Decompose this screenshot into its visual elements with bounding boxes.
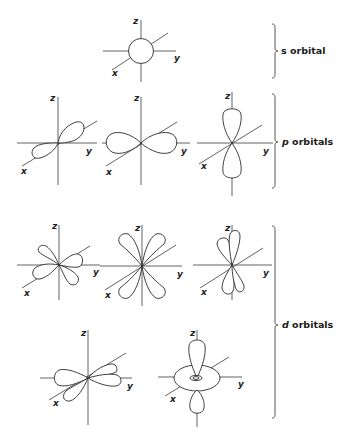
d-label-text: orbitals bbox=[289, 319, 333, 330]
z-axis-label: z bbox=[224, 91, 231, 101]
x-axis-label: x bbox=[23, 288, 31, 298]
p-label-text: orbitals bbox=[289, 136, 333, 147]
z-axis-label: z bbox=[134, 223, 141, 233]
dxz-orbital: z y x bbox=[193, 223, 272, 300]
pz-orbital: z y x bbox=[197, 91, 273, 196]
y-axis-label: y bbox=[181, 146, 188, 156]
x-axis-label: x bbox=[169, 394, 177, 404]
y-axis-label: y bbox=[93, 267, 100, 277]
y-axis-label: y bbox=[238, 379, 245, 389]
y-axis-label: y bbox=[86, 146, 93, 156]
d-group-brace bbox=[272, 226, 278, 418]
y-axis-label: y bbox=[127, 381, 134, 391]
x-axis-label: x bbox=[104, 290, 112, 300]
z-axis-label: z bbox=[80, 328, 87, 338]
d-orbitals-label: d orbitals bbox=[282, 319, 333, 330]
s-group-brace bbox=[272, 24, 278, 78]
y-axis-label: y bbox=[177, 269, 184, 279]
z-axis-label: z bbox=[189, 328, 196, 338]
z-axis-label: z bbox=[49, 93, 56, 103]
x-axis-label: x bbox=[52, 398, 60, 408]
x-axis-label: x bbox=[111, 68, 119, 78]
dx2y2-orbital: z y x bbox=[40, 328, 134, 425]
dz2-orbital: z y x bbox=[158, 328, 245, 427]
px-orbital: z y x bbox=[17, 93, 97, 185]
s-orbital: z y x bbox=[103, 16, 181, 82]
z-axis-label: z bbox=[51, 221, 58, 231]
x-axis-label: x bbox=[105, 167, 113, 177]
s-orbital-label: s orbital bbox=[281, 45, 325, 56]
dyz-orbital: z y x bbox=[100, 223, 184, 306]
y-axis-label: y bbox=[263, 146, 270, 156]
orbital-diagram: z y x z y x z y x z y x bbox=[0, 0, 344, 436]
d-symbol: d bbox=[282, 319, 289, 330]
z-axis-label: z bbox=[133, 93, 140, 103]
y-axis-label: y bbox=[263, 268, 270, 278]
x-axis-label: x bbox=[200, 161, 208, 171]
py-orbital: z y x bbox=[102, 93, 190, 185]
z-axis-label: z bbox=[132, 16, 139, 26]
p-symbol: p bbox=[282, 136, 289, 147]
z-axis-label: z bbox=[224, 223, 231, 233]
x-axis-label: x bbox=[20, 166, 28, 176]
p-orbitals-label: p orbitals bbox=[282, 136, 333, 147]
p-group-brace bbox=[272, 94, 278, 188]
dxy-orbital: z y x bbox=[17, 221, 100, 300]
x-axis-label: x bbox=[200, 287, 208, 297]
y-axis-label: y bbox=[174, 53, 181, 63]
s-label-text: orbital bbox=[287, 45, 326, 56]
